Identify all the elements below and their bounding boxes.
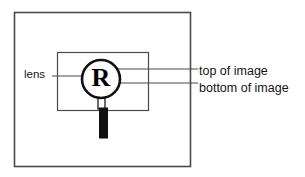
label-lens: lens <box>24 69 45 81</box>
magnifier-handle-neck <box>98 98 105 109</box>
magnifier-handle-bar <box>100 108 108 138</box>
label-top-of-image: top of image <box>199 65 268 78</box>
label-bottom-of-image: bottom of image <box>199 82 289 95</box>
diagram-canvas: R lens top of image bottom of image <box>0 0 305 177</box>
lens-letter-r: R <box>82 63 120 93</box>
